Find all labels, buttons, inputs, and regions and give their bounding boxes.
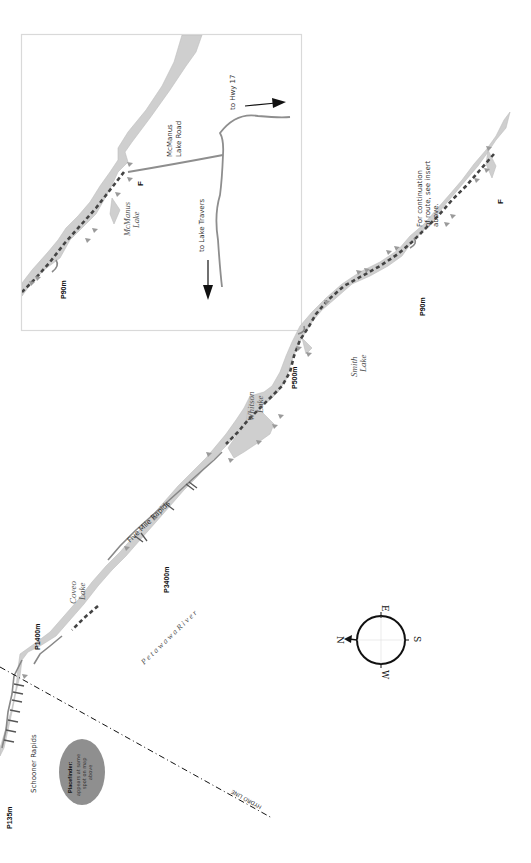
label-p135m: P135m <box>6 806 13 829</box>
campsite-icon <box>306 352 312 357</box>
label-schooner-rapids: Schooner Rapids <box>30 734 38 793</box>
campsite-icon <box>450 214 456 219</box>
label-hydro-line: HYDRO LINE <box>229 788 262 810</box>
placefinder-title: Placefinder: <box>67 761 73 793</box>
inset-map: McManus Lake Road to Hwy 17 to Lake Trav… <box>22 35 302 331</box>
river-bay <box>486 150 496 178</box>
label-p3400m: P3400m <box>163 567 170 593</box>
label-five-mile-rapids: Five Mile Rapids <box>126 499 172 544</box>
label-p1400m: P1400m <box>34 624 41 650</box>
placefinder-line-3: above <box>87 765 93 780</box>
label-to-hwy-17: to Hwy 17 <box>229 74 237 110</box>
compass-west: W <box>380 670 390 680</box>
main-finish-marker: F <box>496 199 505 204</box>
campsite-icon <box>22 674 28 679</box>
label-p500m: P500m <box>291 366 298 389</box>
label-mcmanus-lake-2: Lake <box>131 211 141 229</box>
campsite-icon <box>228 458 234 463</box>
label-whitson-lake-2: Lake <box>255 396 265 415</box>
continuation-note-1: For continuation <box>416 170 424 227</box>
campsite-icon <box>278 414 284 419</box>
inset-finish-marker: F <box>136 181 145 186</box>
campsite-icon <box>444 222 450 227</box>
compass-east: E <box>380 605 390 612</box>
inset-label-p90m: P90m <box>60 280 67 299</box>
rapids-marks <box>4 482 197 742</box>
compass-north: N <box>335 636 345 644</box>
river-bay <box>302 338 312 354</box>
label-to-lake-travers: to Lake Travers <box>198 198 206 252</box>
route-map: McManus Lake Road to Hwy 17 to Lake Trav… <box>0 0 531 863</box>
placefinder: Placefinder: appears at same spot on map… <box>59 739 105 805</box>
continuation-note-2: of route, see insert <box>424 160 432 227</box>
label-coveo-lake-2: Lake <box>77 583 87 602</box>
compass-rose: N E S W <box>335 605 422 680</box>
label-mcmanus-lake-road-1: McManus <box>166 124 174 157</box>
campsite-icon <box>474 178 480 183</box>
label-p90m: P90m <box>419 297 426 316</box>
label-mcmanus-lake-road-2: Lake Road <box>175 121 183 157</box>
compass-south: S <box>412 636 422 642</box>
label-petawawa-river: P e t a w a w a R i v e r <box>138 608 199 668</box>
continuation-note-3: above. <box>432 203 440 227</box>
label-smith-lake-2: Lake <box>358 355 368 374</box>
